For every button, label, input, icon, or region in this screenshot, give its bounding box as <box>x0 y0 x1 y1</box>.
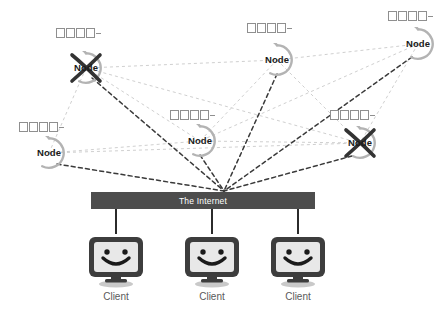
peer-link <box>86 68 360 143</box>
node-label: Node <box>253 53 301 66</box>
callout-glyph <box>19 122 28 132</box>
callout-glyph <box>418 11 427 21</box>
node-label: Node <box>394 37 442 50</box>
callout-glyph <box>408 11 417 21</box>
callout-glyph <box>76 28 85 38</box>
callout-glyph <box>39 122 48 132</box>
peer-link <box>200 44 418 141</box>
callout-glyph <box>49 122 58 132</box>
callout-glyph <box>360 110 369 120</box>
monitor-smiley-icon <box>182 234 242 290</box>
monitor-smiley-icon <box>86 234 146 290</box>
node-callout <box>247 23 292 33</box>
node-label: Node <box>25 146 73 159</box>
diagram-canvas: Node Node Node <box>0 0 448 315</box>
internet-link <box>224 74 277 191</box>
node-callout <box>330 110 375 120</box>
callout-glyph <box>66 28 75 38</box>
monitor-smiley-icon <box>268 234 328 290</box>
callout-glyph <box>170 110 179 120</box>
callout-tail <box>428 16 433 17</box>
callout-glyph <box>267 23 276 33</box>
node-label: Node <box>62 61 110 74</box>
internet-label: The Internet <box>179 196 227 206</box>
client-drop-group <box>116 209 298 234</box>
node-callout <box>170 110 215 120</box>
node-callout <box>388 11 433 21</box>
internet-link <box>57 164 224 191</box>
callout-glyph <box>257 23 266 33</box>
internet-bar: The Internet <box>91 192 315 209</box>
callout-glyph <box>247 23 256 33</box>
client-label: Client <box>175 291 249 302</box>
callout-glyph <box>190 110 199 120</box>
callout-glyph <box>350 110 359 120</box>
client-right[interactable]: Client <box>261 234 335 302</box>
callout-glyph <box>180 110 189 120</box>
client-label: Client <box>79 291 153 302</box>
node-callout <box>19 122 64 132</box>
node-callout <box>56 28 101 38</box>
peer-link <box>86 60 277 68</box>
callout-tail <box>210 115 215 116</box>
internet-link <box>224 156 352 191</box>
callout-glyph <box>29 122 38 132</box>
callout-glyph <box>340 110 349 120</box>
internet-link <box>224 57 412 191</box>
client-label: Client <box>261 291 335 302</box>
callout-tail <box>287 28 292 29</box>
callout-glyph <box>388 11 397 21</box>
callout-glyph <box>398 11 407 21</box>
callout-tail <box>96 33 101 34</box>
callout-glyph <box>56 28 65 38</box>
callout-tail <box>59 127 64 128</box>
node-label: Node <box>176 134 224 147</box>
callout-tail <box>370 115 375 116</box>
callout-glyph <box>200 110 209 120</box>
callout-glyph <box>330 110 339 120</box>
callout-glyph <box>277 23 286 33</box>
callout-glyph <box>86 28 95 38</box>
client-center[interactable]: Client <box>175 234 249 302</box>
client-left[interactable]: Client <box>79 234 153 302</box>
node-label: Node <box>336 136 384 149</box>
